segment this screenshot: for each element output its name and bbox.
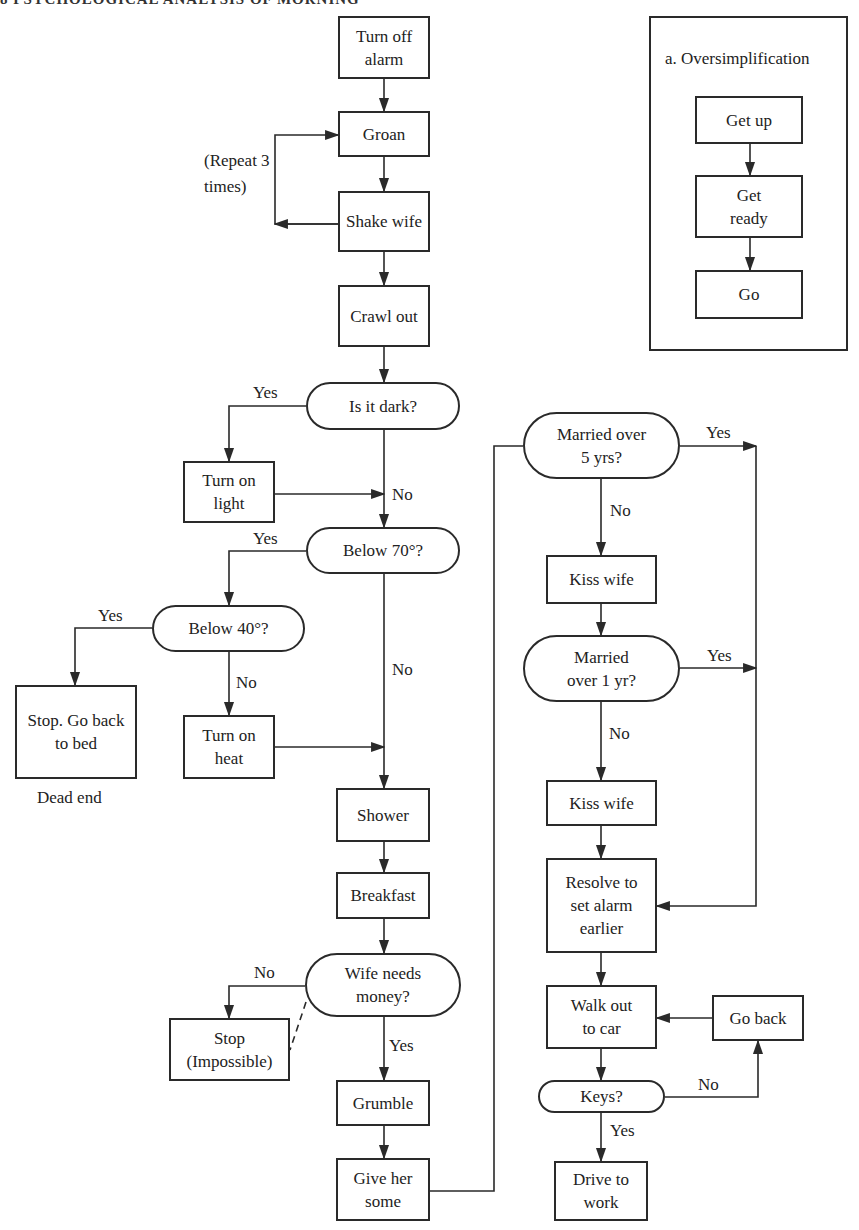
decision-married-over-1: Married over 1 yr? [523,635,680,702]
node-shake-wife: Shake wife [338,191,430,252]
node-turn-off-alarm: Turn off alarm [338,16,430,79]
node-groan: Groan [338,111,430,157]
decision-below-70: Below 70°? [306,527,460,574]
node-walk-out-to-car: Walk out to car [546,985,657,1049]
node-kiss-wife-1: Kiss wife [546,555,657,604]
flowchart-canvas: 8 PSYCHOLOGICAL ANALYSIS OF MORNING [0,0,859,1230]
label-money-yes: Yes [389,1035,414,1057]
node-grumble: Grumble [336,1080,430,1126]
node-go-back: Go back [712,995,804,1041]
decision-wife-needs-money: Wife needs money? [305,953,461,1017]
label-keys-no: No [698,1074,719,1096]
label-married1-no: No [609,723,630,745]
node-drive-to-work: Drive to work [554,1161,648,1221]
node-turn-on-heat: Turn on heat [183,715,275,779]
node-kiss-wife-2: Kiss wife [546,780,657,826]
label-dark-no: No [392,484,413,506]
node-get-ready: Get ready [695,175,803,238]
label-below70-yes: Yes [253,528,278,550]
repeat-label: (Repeat 3 times) [204,148,274,200]
node-get-up: Get up [695,96,803,144]
node-stop-impossible: Stop (Impossible) [169,1018,290,1081]
label-money-no: No [254,962,275,984]
decision-is-it-dark: Is it dark? [306,382,460,430]
node-breakfast: Breakfast [336,872,430,919]
node-crawl-out: Crawl out [338,285,430,347]
oversimplification-title: a. Oversimplification [665,48,809,70]
node-give-her-some: Give her some [336,1158,430,1221]
node-turn-on-light: Turn on light [183,461,275,523]
label-below70-no: No [392,659,413,681]
decision-married-over-5: Married over 5 yrs? [523,412,680,479]
label-below40-no: No [236,672,257,694]
node-go: Go [695,270,803,319]
label-dark-yes: Yes [253,382,278,404]
decision-below-40: Below 40°? [152,605,305,652]
dead-end-label: Dead end [37,787,102,809]
label-married5-yes: Yes [706,422,731,444]
label-married5-no: No [610,500,631,522]
decision-keys: Keys? [538,1080,665,1113]
label-married1-yes: Yes [707,645,732,667]
label-below40-yes: Yes [98,605,123,627]
node-stop-go-back-to-bed: Stop. Go back to bed [15,685,137,779]
node-resolve-set-alarm-earlier: Resolve to set alarm earlier [546,858,657,953]
label-keys-yes: Yes [610,1120,635,1142]
node-shower: Shower [336,788,430,842]
